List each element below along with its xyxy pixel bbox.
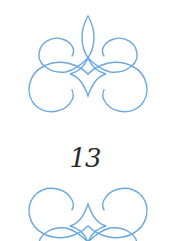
flourish-icon	[0, 0, 170, 241]
bottom-flourish-ornament	[0, 0, 170, 241]
